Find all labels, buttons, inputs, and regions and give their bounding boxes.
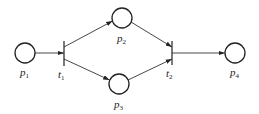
place-p4	[225, 43, 245, 63]
place-p1	[15, 43, 35, 63]
place-p2	[112, 8, 132, 28]
labels: p1 p2 p3 p4 t1 t2	[19, 32, 240, 112]
label-p1: p1	[19, 66, 30, 80]
label-t1: t1	[58, 68, 65, 82]
label-t2: t2	[166, 67, 173, 81]
label-p4: p4	[229, 66, 240, 80]
label-p2: p2	[116, 32, 127, 46]
place-p3	[109, 74, 129, 94]
label-p3: p3	[113, 98, 124, 112]
arc-p2-t2	[131, 22, 172, 47]
arc-t1-p3	[64, 59, 110, 80]
transitions	[64, 41, 172, 66]
petri-net-diagram: p1 p2 p3 p4 t1 t2	[0, 0, 259, 114]
places	[15, 8, 245, 94]
arc-t1-p2	[64, 21, 113, 47]
